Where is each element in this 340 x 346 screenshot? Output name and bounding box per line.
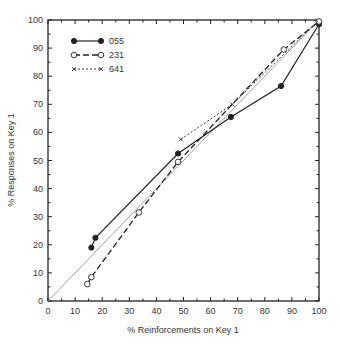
x-axis: 0102030405060708090100 <box>45 20 326 316</box>
data-point-marker <box>278 83 283 88</box>
x-tick-label: 70 <box>233 306 243 316</box>
chart-svg: 0102030405060708090100 01020304050607080… <box>0 0 340 346</box>
data-point-marker <box>228 114 233 119</box>
legend: 055231641 <box>71 36 124 74</box>
x-tick-label: 10 <box>70 306 80 316</box>
y-axis: 0102030405060708090100 <box>28 15 319 306</box>
data-point-marker <box>84 281 90 287</box>
data-point-marker <box>175 159 181 165</box>
x-tick-label: 50 <box>178 306 188 316</box>
legend-item-641: 641 <box>72 64 124 74</box>
data-point-marker <box>230 102 234 106</box>
legend-label: 055 <box>109 36 124 46</box>
y-tick-label: 30 <box>33 212 43 222</box>
reference-diagonal-line <box>48 20 319 301</box>
legend-marker-icon <box>98 38 103 43</box>
legend-marker-icon <box>71 38 76 43</box>
y-tick-label: 10 <box>33 268 43 278</box>
x-tick-label: 30 <box>124 306 134 316</box>
y-tick-label: 60 <box>33 127 43 137</box>
y-axis-title: % Responses on Key 1 <box>6 113 16 207</box>
x-axis-title: % Reinforcements on Key 1 <box>127 325 239 335</box>
y-tick-label: 100 <box>28 15 43 25</box>
x-tick-label: 60 <box>206 306 216 316</box>
data-point-marker <box>281 47 287 53</box>
data-point-marker <box>136 210 142 216</box>
data-point-marker <box>89 274 95 280</box>
x-tick-label: 20 <box>97 306 107 316</box>
x-tick-label: 80 <box>260 306 270 316</box>
y-tick-label: 50 <box>33 156 43 166</box>
data-point-marker <box>179 137 183 141</box>
data-point-marker <box>175 151 180 156</box>
series-line <box>87 21 319 284</box>
legend-label: 231 <box>109 50 124 60</box>
legend-label: 641 <box>109 64 124 74</box>
x-tick-label: 0 <box>45 306 50 316</box>
x-tick-label: 90 <box>287 306 297 316</box>
y-tick-label: 70 <box>33 99 43 109</box>
x-tick-label: 100 <box>311 306 326 316</box>
y-tick-label: 20 <box>33 240 43 250</box>
data-point-marker <box>93 235 98 240</box>
data-point-marker <box>89 245 94 250</box>
series-line <box>91 24 319 247</box>
y-tick-label: 0 <box>38 296 43 306</box>
x-tick-label: 40 <box>151 306 161 316</box>
legend-marker-icon <box>98 52 104 58</box>
legend-marker-icon <box>71 52 77 58</box>
y-tick-label: 90 <box>33 43 43 53</box>
y-tick-label: 80 <box>33 71 43 81</box>
y-tick-label: 40 <box>33 184 43 194</box>
legend-item-231: 231 <box>71 50 124 60</box>
legend-item-055: 055 <box>71 36 124 46</box>
